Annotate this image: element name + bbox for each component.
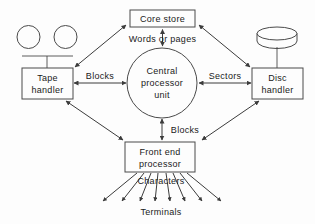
disc-pack-top-icon [257, 27, 297, 40]
node-cpu-label-line1: Central [146, 66, 177, 76]
node-terminals-label: Terminals [140, 207, 181, 217]
system-diagram: Core store Tape handler Disc handler Cen… [0, 0, 315, 224]
disc-pack-body-icon [257, 34, 297, 49]
edge-tape-handler-front-end [66, 101, 123, 140]
tape-reel-left-icon [17, 26, 40, 49]
edge-terminal-1 [103, 173, 137, 201]
node-front-end-label-line1: Front end [139, 147, 180, 157]
edge-disc-handler-core-store [199, 25, 250, 67]
node-cpu-label-line3: unit [154, 90, 170, 100]
node-disc-handler-label-line2: handler [261, 85, 293, 95]
edge-label-characters: Characters [137, 176, 184, 186]
edge-label-words-or-pages: Words or pages [129, 34, 197, 44]
tape-reel-right-icon [54, 26, 77, 49]
node-disc-handler-label-line1: Disc [268, 73, 287, 83]
node-tape-handler-label-line2: handler [31, 85, 63, 95]
diagram-canvas: Core store Tape handler Disc handler Cen… [0, 0, 315, 224]
node-cpu-label-line2: processor [141, 78, 183, 88]
edge-disc-handler-front-end [202, 101, 259, 140]
edge-terminal-8 [187, 173, 221, 201]
edge-label-sectors: Sectors [209, 71, 242, 81]
node-tape-handler-label-line1: Tape [37, 73, 58, 83]
node-front-end-label-line2: processor [139, 159, 181, 169]
edge-label-blocks-tape: Blocks [86, 71, 115, 81]
edge-tape-handler-core-store [75, 25, 126, 67]
edge-label-blocks-front-end: Blocks [171, 125, 200, 135]
node-core-store-label: Core store [140, 14, 185, 24]
